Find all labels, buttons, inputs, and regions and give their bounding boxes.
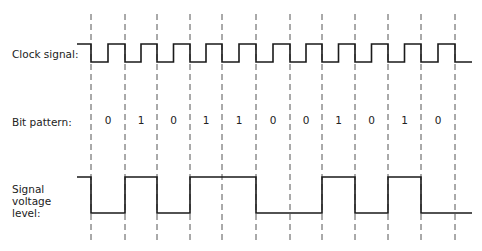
timing-diagram: 01011001010 (0, 0, 482, 251)
bit-pattern-values: 01011001010 (105, 114, 442, 126)
signal-voltage-waveform (77, 177, 472, 213)
bit-value-2: 0 (170, 114, 177, 126)
bit-value-5: 0 (270, 114, 277, 126)
bit-value-7: 1 (335, 114, 342, 126)
bit-value-8: 0 (368, 114, 375, 126)
bit-value-0: 0 (105, 114, 112, 126)
bit-value-6: 0 (303, 114, 310, 126)
bit-value-10: 0 (435, 114, 442, 126)
bit-value-9: 1 (401, 114, 408, 126)
clock-waveform (77, 44, 472, 62)
bit-value-4: 1 (236, 114, 243, 126)
bit-value-3: 1 (203, 114, 210, 126)
bit-value-1: 1 (138, 114, 145, 126)
